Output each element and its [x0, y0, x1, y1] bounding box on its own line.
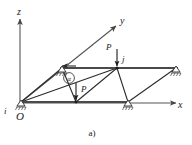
angle-marker-label: α — [67, 75, 71, 83]
support-upper-right-hatch-3 — [177, 73, 179, 76]
x-axis-label: x — [177, 99, 183, 110]
support-upper-right-hatch-1 — [171, 73, 173, 76]
load-upper-label: P — [105, 42, 112, 52]
truss-diagram-svg: α P P — [0, 0, 192, 145]
node-i-label: i — [4, 106, 7, 116]
figure-caption: a) — [89, 128, 96, 138]
member-bottom-support-to-right-top — [128, 68, 176, 102]
support-origin-hatch-4 — [25, 107, 27, 110]
axis-group — [20, 19, 176, 103]
node-lower-mid-dot — [75, 101, 78, 104]
origin-label: O — [16, 110, 24, 122]
support-bottom-hatch-4 — [132, 107, 134, 110]
y-axis-label: y — [119, 15, 125, 26]
load-upper-group: P — [105, 42, 117, 66]
truss-members — [21, 68, 176, 102]
node-j-dot — [115, 66, 118, 69]
member-j-to-bottom-support — [117, 68, 128, 102]
z-axis-label: z — [16, 6, 21, 17]
support-bottom-hatch-3 — [129, 107, 131, 110]
node-j-label: j — [121, 54, 125, 64]
truss-figure: α P P — [0, 0, 192, 145]
labels-group: z y x O i j a) — [4, 6, 183, 138]
support-bottom-hatch-1 — [123, 107, 125, 110]
support-upper-left-hatch-2 — [60, 73, 62, 76]
load-lower-label: P — [80, 84, 87, 94]
support-upper-right-hatch-4 — [180, 73, 182, 76]
member-i-to-upper-left — [21, 68, 62, 102]
support-upper-right-hatch-2 — [174, 73, 176, 76]
support-bottom-hatch-2 — [126, 107, 128, 110]
